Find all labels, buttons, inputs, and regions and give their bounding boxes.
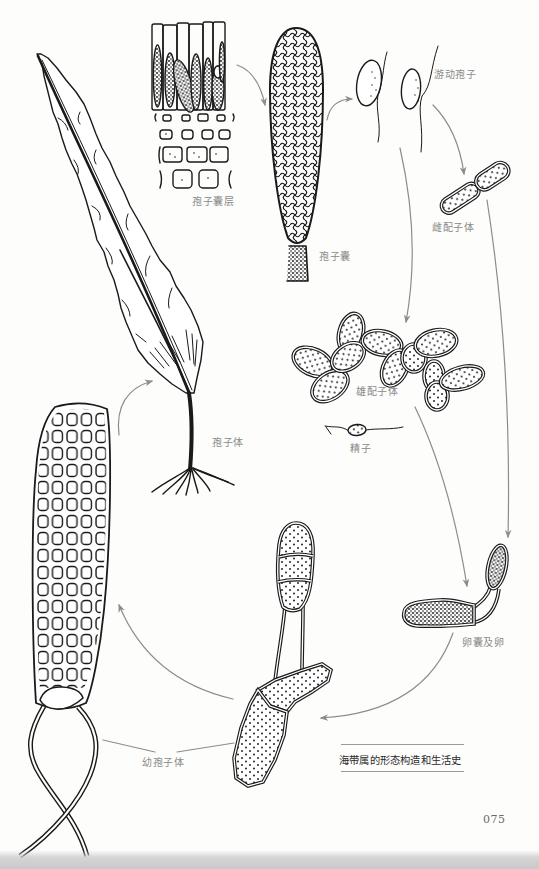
- juvenile-sporophyte-drawing: [234, 523, 331, 786]
- caption-rule-bottom: [341, 771, 464, 772]
- young-sporophyte-leader-line-left: [103, 740, 155, 752]
- arrow-egg-to-juvenile: [321, 633, 453, 718]
- label-sporophyte: 孢子体: [212, 437, 244, 448]
- arrow-zoospore-to-female: [433, 105, 464, 174]
- young-sporophyte-drawing: [20, 400, 115, 856]
- arrow-juvenile-to-young-sporophyte: [119, 605, 233, 699]
- label-oogonium-and-egg: 卵囊及卵: [462, 637, 504, 648]
- young-sporophyte-leader-line-right: [177, 743, 234, 752]
- figure-caption: 海带属的形态构造和生活史: [339, 754, 461, 766]
- arrow-layer-to-sporangium: [237, 65, 265, 105]
- holdfast: [152, 468, 234, 495]
- kelp-life-cycle-illustration: [0, 0, 539, 869]
- sporangium-drawing: [270, 28, 323, 281]
- label-female-gametophyte: 雌配子体: [432, 222, 474, 233]
- zoospores-drawing: [353, 46, 438, 152]
- stipe: [189, 393, 192, 470]
- oogonium-and-egg-drawing: [404, 544, 511, 627]
- label-sporangium: 孢子囊: [319, 251, 351, 262]
- label-young-sporophyte: 幼孢子体: [142, 757, 184, 768]
- scan-edge-shadow: [0, 850, 539, 869]
- caption-rule-top: [341, 744, 464, 745]
- label-sperm: 精子: [350, 443, 371, 454]
- female-gametophyte-drawing: [437, 159, 512, 216]
- sperm-drawing: [325, 424, 403, 437]
- arrow-zoospore-to-male: [400, 148, 412, 322]
- book-page: 孢子囊层 孢子囊 游动孢子 雌配子体 雄配子体 精子 孢子体 卵囊及卵 幼孢子体…: [0, 0, 539, 869]
- arrow-young-to-adult-sporophyte: [118, 381, 152, 435]
- sporangial-layer-drawing: [152, 22, 234, 188]
- arrow-female-to-oogonium: [487, 200, 509, 537]
- cortex-cells: [155, 114, 234, 188]
- label-sporangial-layer: 孢子囊层: [192, 196, 234, 207]
- page-number: 075: [483, 813, 506, 826]
- arrow-male-to-oogonium: [415, 407, 467, 586]
- label-zoospores: 游动孢子: [434, 69, 476, 80]
- arrow-sporangium-to-zoospore: [327, 99, 352, 120]
- label-male-gametophyte: 雄配子体: [356, 386, 398, 397]
